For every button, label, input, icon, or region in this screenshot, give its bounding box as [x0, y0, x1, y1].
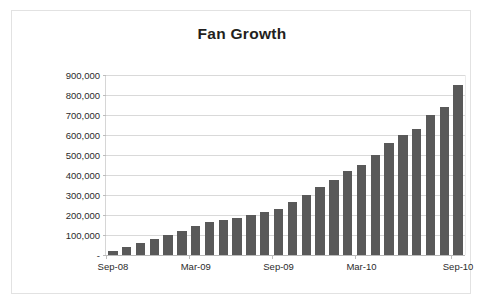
x-axis-tick-label: Sep-10 — [443, 261, 474, 272]
bar — [205, 222, 214, 255]
bar — [371, 155, 380, 255]
bar — [274, 209, 283, 255]
plot-area: 900,000800,000700,000600,000500,000400,0… — [105, 75, 466, 255]
gridline — [106, 255, 465, 256]
bar — [412, 129, 421, 255]
bar — [163, 235, 172, 255]
bar — [122, 247, 131, 255]
x-axis-tick-mark — [189, 255, 190, 259]
bar — [150, 239, 159, 255]
y-axis-tick-label: 100,000 — [66, 230, 100, 241]
x-axis-tick-label: Mar-10 — [346, 261, 376, 272]
bar — [260, 212, 269, 255]
y-axis-tick-label: 900,000 — [66, 70, 100, 81]
bar — [440, 107, 449, 255]
bar — [302, 195, 311, 255]
x-axis-tick-label: Mar-09 — [181, 261, 211, 272]
bar — [315, 187, 324, 255]
bar — [426, 115, 435, 255]
x-axis-tick-label: Sep-09 — [263, 261, 294, 272]
bar — [398, 135, 407, 255]
x-axis-tick-mark — [106, 255, 107, 259]
bar — [191, 226, 200, 255]
x-axis-tick-label: Sep-08 — [98, 261, 129, 272]
bar — [108, 251, 117, 255]
chart-title: Fan Growth — [12, 25, 472, 43]
bar — [357, 165, 366, 255]
y-axis-tick-label: 300,000 — [66, 190, 100, 201]
y-axis-tick-label: - — [97, 250, 100, 261]
y-axis-tick-label: 500,000 — [66, 150, 100, 161]
bar — [288, 202, 297, 255]
bar — [136, 243, 145, 255]
bar — [232, 218, 241, 255]
bar — [246, 215, 255, 255]
bar — [329, 180, 338, 255]
y-axis-tick-label: 600,000 — [66, 130, 100, 141]
y-axis-tick-label: 800,000 — [66, 90, 100, 101]
x-axis-tick-mark — [272, 255, 273, 259]
y-axis-tick-label: 400,000 — [66, 170, 100, 181]
bar — [177, 231, 186, 255]
bar — [384, 143, 393, 255]
bar — [219, 220, 228, 255]
bar — [343, 171, 352, 255]
bar — [453, 85, 462, 255]
x-axis-tick-mark — [451, 255, 452, 259]
y-axis-tick-label: 200,000 — [66, 210, 100, 221]
y-axis-tick-label: 700,000 — [66, 110, 100, 121]
chart-container: Fan Growth 900,000800,000700,000600,0005… — [11, 10, 471, 294]
bars-group — [106, 75, 465, 255]
x-axis-tick-mark — [355, 255, 356, 259]
